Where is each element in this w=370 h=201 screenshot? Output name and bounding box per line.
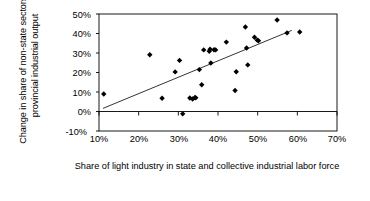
data-point-markers xyxy=(101,17,302,116)
data-point xyxy=(177,58,182,63)
plot-area xyxy=(0,0,370,201)
data-point xyxy=(199,82,204,87)
data-point xyxy=(101,91,106,96)
data-point xyxy=(159,96,164,101)
data-point xyxy=(232,88,237,93)
scatter-chart-figure: Change in share of non-state sectors in … xyxy=(0,0,370,201)
data-point xyxy=(234,69,239,74)
data-point xyxy=(274,17,279,22)
data-point xyxy=(147,52,152,57)
x-axis-ticks xyxy=(99,112,337,116)
data-point xyxy=(243,24,248,29)
data-point xyxy=(297,29,302,34)
data-point xyxy=(201,47,206,52)
data-point xyxy=(172,69,177,74)
data-point xyxy=(245,62,250,67)
data-point xyxy=(284,30,289,35)
data-point xyxy=(224,39,229,44)
